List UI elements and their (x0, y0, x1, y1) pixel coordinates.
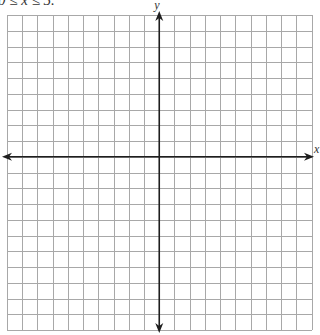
y-axis-label: y (153, 0, 160, 12)
axes (2, 11, 314, 333)
coordinate-grid: x y (0, 0, 320, 335)
x-axis-label: x (313, 142, 320, 156)
